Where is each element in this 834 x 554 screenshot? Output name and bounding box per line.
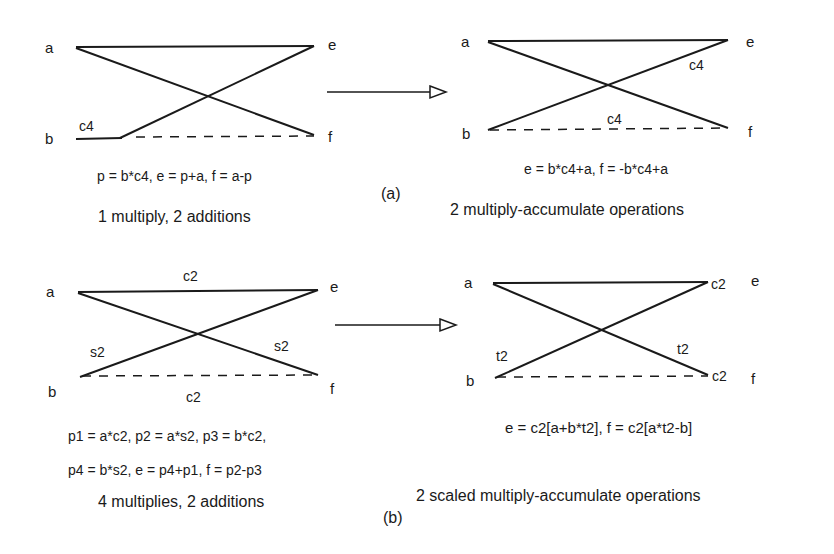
coeff-left-s2-label: s2 bbox=[90, 345, 105, 359]
cost-a-after: 2 multiply-accumulate operations bbox=[450, 202, 684, 218]
node-f-label: f bbox=[330, 381, 334, 396]
node-b-label: b bbox=[45, 131, 53, 146]
equation-b-before-line1: p1 = a*c2, p2 = a*s2, p3 = b*c2, bbox=[68, 429, 266, 443]
coeff-lower-c4-label: c4 bbox=[607, 112, 622, 126]
node-a-label: a bbox=[464, 275, 472, 290]
cost-b-before: 4 multiplies, 2 additions bbox=[98, 494, 264, 510]
node-e-label: e bbox=[751, 273, 759, 288]
coeff-right-t2-label: t2 bbox=[677, 342, 689, 356]
equation-b-before-line2: p4 = b*s2, e = p4+p1, f = p2-p3 bbox=[68, 463, 262, 477]
equation-a-after: e = b*c4+a, f = -b*c4+a bbox=[524, 162, 668, 176]
butterfly-a-before bbox=[76, 46, 314, 139]
cost-a-before: 1 multiply, 2 additions bbox=[98, 209, 251, 225]
coeff-bottom-c2-label: c2 bbox=[186, 390, 201, 404]
equation-a-before: p = b*c4, e = p+a, f = a-p bbox=[97, 169, 252, 183]
panel-a-tag: (a) bbox=[381, 186, 401, 202]
scale-f-c2-label: c2 bbox=[712, 369, 727, 383]
node-e-label: e bbox=[330, 279, 338, 294]
node-a-label: a bbox=[461, 34, 469, 49]
node-e-label: e bbox=[328, 37, 336, 52]
butterfly-b-after bbox=[493, 282, 708, 378]
butterfly-b-before bbox=[78, 290, 318, 377]
node-b-label: b bbox=[48, 384, 56, 399]
node-a-label: a bbox=[45, 40, 53, 55]
node-a-label: a bbox=[46, 284, 54, 299]
coeff-right-s2-label: s2 bbox=[274, 339, 289, 353]
transform-arrow-a bbox=[327, 86, 446, 98]
panel-b-tag: (b) bbox=[383, 510, 403, 526]
cost-b-after: 2 scaled multiply-accumulate operations bbox=[416, 488, 701, 504]
node-f-label: f bbox=[751, 371, 755, 386]
scale-e-c2-label: c2 bbox=[711, 277, 726, 291]
equation-b-after: e = c2[a+b*t2], f = c2[a*t2-b] bbox=[505, 420, 692, 435]
coeff-upper-c4-label: c4 bbox=[689, 58, 704, 72]
node-b-label: b bbox=[462, 126, 470, 141]
coeff-left-t2-label: t2 bbox=[496, 349, 508, 363]
coeff-top-c2-label: c2 bbox=[183, 269, 198, 283]
node-f-label: f bbox=[748, 124, 752, 139]
node-e-label: e bbox=[746, 34, 754, 49]
node-f-label: f bbox=[328, 129, 332, 144]
node-b-label: b bbox=[466, 373, 474, 388]
transform-arrow-b bbox=[335, 319, 456, 331]
coeff-c4-label: c4 bbox=[79, 119, 94, 133]
